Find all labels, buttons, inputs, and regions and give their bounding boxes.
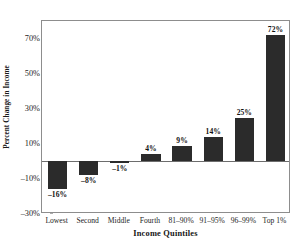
x-axis-tick-label: Second [77, 216, 99, 225]
y-axis-tick-label: 50% [14, 68, 40, 77]
bar [266, 35, 285, 161]
bar [79, 161, 98, 175]
bar [204, 137, 223, 162]
bar-value-label: 4% [145, 144, 156, 153]
y-axis-tick-label: 30% [14, 103, 40, 112]
y-axis-tick-label: –30% [14, 209, 40, 218]
y-axis-tick-label: 10% [14, 138, 40, 147]
bar-value-label: 9% [176, 136, 187, 145]
bar [141, 154, 160, 161]
x-axis-tick-label: 81–90% [168, 216, 193, 225]
bar [48, 161, 67, 189]
x-axis-tick-label: Middle [108, 216, 130, 225]
bar-value-label: 25% [237, 108, 252, 117]
bar [172, 146, 191, 162]
y-axis-title-text: Percent Change in Income [3, 65, 11, 149]
y-axis-tick-label: –10% [14, 173, 40, 182]
x-axis-title: Income Quintiles [41, 229, 290, 238]
x-axis-tick-label: 91–95% [200, 216, 225, 225]
y-axis-ticks: 70%50%30%10%–10%–30% [12, 0, 40, 244]
bar-value-label: –1% [112, 164, 127, 173]
bar-value-label: 72% [268, 25, 283, 34]
x-axis-tick-label: Lowest [45, 216, 67, 225]
bar [110, 161, 129, 163]
x-axis-tick-label: Top 1% [263, 216, 287, 225]
x-axis-tick-label: 96–99% [231, 216, 256, 225]
bar [235, 118, 254, 162]
bar-chart: Percent Change in Income 70%50%30%10%–10… [0, 0, 299, 244]
bar-value-label: –16% [48, 190, 67, 199]
plot-area: –16%–8%–1%4%9%14%25%72% [41, 20, 290, 213]
bar-value-label: 14% [206, 127, 221, 136]
bar-value-label: –8% [81, 176, 96, 185]
x-axis-tick-labels: LowestSecondMiddleFourth81–90%91–95%96–9… [41, 216, 290, 228]
y-axis-tick-label: 70% [14, 33, 40, 42]
x-axis-tick-label: Fourth [140, 216, 160, 225]
